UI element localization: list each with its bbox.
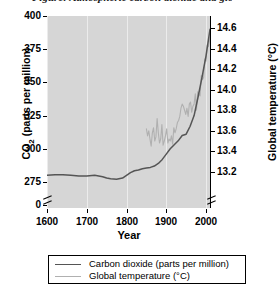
- co2-line: [47, 29, 210, 179]
- legend-label-co2: Carbon dioxide (parts per million): [89, 259, 229, 269]
- right-axis-title: Global temperature (°C): [266, 12, 278, 192]
- left-axis-title-text: CO2 (parts per million): [20, 48, 32, 160]
- legend-entry-temperature: Global temperature (°C): [55, 270, 190, 282]
- series-lines: [0, 0, 280, 287]
- legend-label-temperature: Global temperature (°C): [89, 271, 190, 281]
- legend-swatch-co2: [55, 264, 81, 265]
- legend-entry-co2: Carbon dioxide (parts per million): [55, 258, 229, 270]
- co2-temperature-chart-figure: Figure: Atmospheric carbon dioxide and g…: [0, 0, 280, 287]
- temperature-line: [146, 30, 210, 146]
- legend-swatch-temperature: [55, 276, 81, 277]
- x-axis-title: Year: [47, 229, 211, 241]
- left-axis-title: CO2 (parts per million): [20, 14, 35, 194]
- legend: Carbon dioxide (parts per million) Globa…: [48, 255, 246, 284]
